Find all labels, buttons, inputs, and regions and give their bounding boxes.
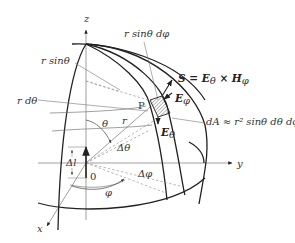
r-sin-theta-dphi-label: r sinθ dφ: [124, 28, 169, 39]
r-dtheta-label: r dθ: [17, 95, 37, 106]
delta-phi-label: Δφ: [137, 168, 152, 179]
phi-label: φ: [105, 187, 112, 198]
spherical-coordinates-diagram: z y x 0 r sinθ r sinθ dφ r dθ S = Eθ × H…: [0, 0, 295, 243]
angle-arcs: [72, 120, 124, 189]
r-label: r: [122, 115, 128, 126]
E-phi-label: Eφ: [174, 92, 190, 106]
theta-label: θ: [102, 118, 108, 129]
radius-line: [86, 107, 150, 163]
dA-label: dA ≈ r² sinθ dθ dφ: [206, 116, 295, 127]
poynting-label: S = Eθ × Hφ: [178, 72, 249, 86]
point-P-label: P: [138, 100, 145, 111]
z-axis-label: z: [83, 13, 90, 24]
r-sin-theta-label: r sinθ: [41, 55, 70, 66]
x-axis: [47, 163, 86, 226]
y-axis-label: y: [236, 158, 243, 169]
delta-l-label: Δl: [65, 157, 76, 168]
x-axis-label: x: [37, 223, 43, 234]
origin-label: 0: [90, 171, 96, 182]
delta-theta-label: Δθ: [116, 142, 130, 153]
E-theta-label: Eθ: [160, 126, 175, 140]
